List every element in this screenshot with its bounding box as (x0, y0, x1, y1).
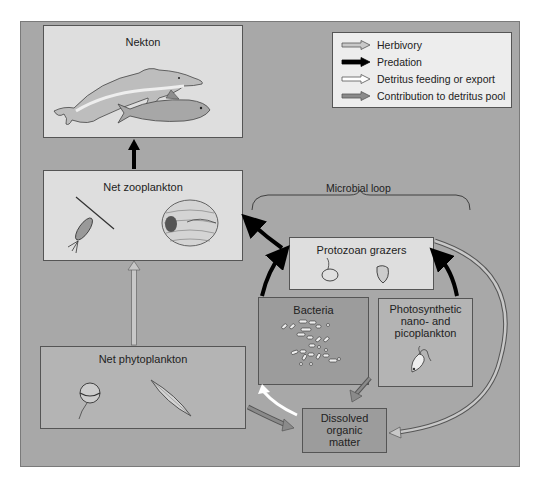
tintinnid-icon (290, 238, 433, 289)
legend: Herbivory Predation Detritus feeding or … (332, 32, 512, 108)
legend-item-detritus-contribution: Contribution to detritus pool (341, 89, 505, 103)
legend-item-predation: Predation (341, 55, 422, 69)
legend-label: Contribution to detritus pool (377, 90, 505, 102)
flagellate-icon (379, 299, 472, 386)
node-protozoan-grazers: Protozoan grazers (289, 237, 434, 290)
node-bacteria: Bacteria (258, 297, 369, 385)
node-label: Dissolved organic matter (303, 412, 386, 448)
legend-item-detritus-feeding: Detritus feeding or export (341, 72, 495, 86)
legend-label: Detritus feeding or export (377, 73, 495, 85)
node-net-zooplankton: Net zooplankton (43, 170, 243, 261)
node-net-phytoplankton: Net phytoplankton (40, 346, 246, 429)
node-label-line: Dissolved (303, 412, 386, 424)
predation-arrow-icon (341, 57, 371, 67)
node-dissolved-organic-matter: Dissolved organic matter (302, 408, 387, 453)
microbial-loop-label: Microbial loop (326, 182, 391, 194)
fish-icon (44, 26, 242, 137)
node-photosynthetic-nano-picoplankton: Photosynthetic nano- and picoplankton (378, 298, 473, 387)
legend-label: Herbivory (377, 39, 422, 51)
diatom-icon (41, 347, 245, 428)
detritus-contribution-arrow-icon (341, 91, 371, 101)
node-label-line: organic (303, 424, 386, 436)
larvacean-icon (44, 171, 242, 260)
node-nekton: Nekton (43, 25, 243, 138)
legend-item-herbivory: Herbivory (341, 38, 422, 52)
legend-label: Predation (377, 56, 422, 68)
detritus-feeding-arrow-icon (341, 74, 371, 84)
bacteria-cluster-icon (259, 298, 368, 384)
herbivory-arrow-icon (341, 40, 371, 50)
node-label-line: matter (303, 436, 386, 448)
